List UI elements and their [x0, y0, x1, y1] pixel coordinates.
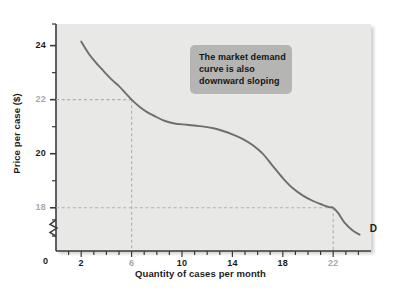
x-tick-label-14: 14	[212, 258, 252, 268]
y-tick-label-24: 24	[0, 40, 46, 50]
callout-line-3: downward sloping	[199, 75, 284, 87]
demand-curve-label: D	[370, 223, 377, 234]
demand-curve-figure: 18 20 22 24 0 2 6 10 14 18 22 Quantity o…	[0, 0, 401, 291]
x-tick-label-6: 6	[112, 258, 152, 268]
callout-line-2: curve is also	[199, 63, 284, 75]
y-tick-label-20: 20	[0, 148, 46, 158]
y-axis-title: Price per case ($)	[11, 74, 22, 194]
axis-origin-label: 0	[43, 256, 48, 266]
plot-graphics	[0, 0, 401, 291]
x-axis-ticks	[69, 251, 359, 257]
x-tick-label-22: 22	[313, 258, 353, 268]
callout-line-1: The market demand	[199, 51, 284, 63]
x-axis-title: Quantity of cases per month	[0, 268, 401, 279]
x-tick-label-18: 18	[263, 258, 303, 268]
x-tick-label-2: 2	[61, 258, 101, 268]
y-tick-label-22: 22	[0, 94, 46, 104]
x-tick-label-10: 10	[162, 258, 202, 268]
callout-market-demand: The market demand curve is also downward…	[190, 45, 292, 94]
y-tick-label-18: 18	[0, 202, 46, 212]
dashed-guide-lines	[56, 100, 333, 251]
